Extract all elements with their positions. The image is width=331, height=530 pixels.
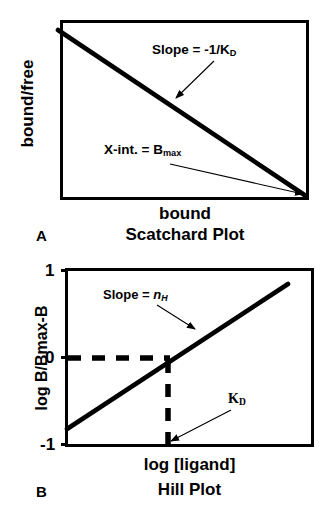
scatchard-and-hill-plot-figure: bound/free Slope = -1/KD X-int. = Bmax b…: [0, 0, 331, 530]
panel-b-letter: B: [36, 484, 47, 499]
panel-b-kd-arrow: [171, 410, 231, 441]
panel-a-slope-annotation: Slope = -1/KD: [152, 43, 236, 57]
panel-a-slope-annotation-subscript: D: [230, 48, 237, 58]
panel-b-group: [61, 270, 313, 446]
panel-b-title: Hill Plot: [66, 481, 313, 498]
panel-b-y-tick-label-1: 1: [45, 262, 54, 279]
panel-b-kd-annotation-text: K: [228, 391, 239, 406]
panel-b-slope-annotation-variable: n: [153, 287, 161, 302]
panel-a-xintercept-annotation: X-int. = Bmax: [104, 143, 181, 157]
panel-a-slope-arrow: [176, 61, 214, 98]
panel-b-slope-arrow: [157, 305, 195, 329]
panel-b-y-tick-label-0: 0: [45, 349, 54, 366]
panel-a-letter: A: [36, 228, 47, 243]
panel-b-kd-annotation-subscript: D: [239, 397, 246, 407]
panel-a-y-axis-label: bound/free: [19, 44, 36, 164]
panel-b-y-tick-label-minus-1: -1: [40, 436, 55, 453]
panel-b-slope-annotation-subscript: H: [161, 293, 167, 303]
panel-a-x-axis-label: bound: [61, 205, 309, 222]
panel-a-xintercept-annotation-text: X-int. = B: [104, 142, 163, 157]
panel-b-kd-annotation: KD: [228, 392, 246, 406]
panel-b-x-axis-label: log [ligand]: [66, 456, 313, 473]
panel-b-slope-annotation: Slope = nH: [103, 288, 168, 301]
panel-a-slope-annotation-text: Slope = -1/K: [152, 42, 230, 57]
panel-a-xintercept-annotation-subscript: max: [163, 148, 181, 158]
panel-b-slope-annotation-text: Slope =: [103, 287, 153, 302]
panel-a-title: Scatchard Plot: [61, 226, 309, 243]
